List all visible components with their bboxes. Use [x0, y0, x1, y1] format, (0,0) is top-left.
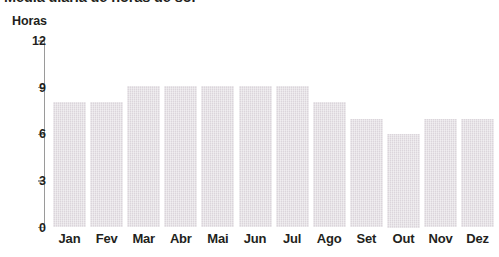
x-axis-label-fev: Fev: [86, 231, 127, 246]
x-axis-label-abr: Abr: [160, 231, 201, 246]
x-axis-label-mai: Mai: [197, 231, 238, 246]
x-axis-label-jun: Jun: [235, 231, 276, 246]
plot-area: 036912 JanFevMarAbrMaiJunJulAgoSetOutNov…: [0, 0, 499, 257]
x-axis-label-set: Set: [346, 231, 387, 246]
bar-out: [387, 134, 420, 227]
bar-nov: [424, 119, 457, 228]
bar-abr: [164, 86, 197, 227]
bar-jul: [276, 86, 309, 227]
x-axis-label-ago: Ago: [309, 231, 350, 246]
bar-mar: [127, 86, 160, 227]
sunshine-hours-bar-chart: Média diária de horas de sol Horas 03691…: [0, 0, 499, 257]
x-axis-label-jan: Jan: [49, 231, 90, 246]
bar-jan: [53, 102, 86, 228]
x-axis-label-dez: Dez: [457, 231, 498, 246]
bars-layer: [0, 0, 499, 257]
bar-set: [350, 119, 383, 228]
x-axis-label-mar: Mar: [123, 231, 164, 246]
x-axis-label-out: Out: [383, 231, 424, 246]
bar-jun: [239, 86, 272, 227]
x-axis-label-jul: Jul: [272, 231, 313, 246]
bar-dez: [461, 119, 494, 228]
x-axis-label-nov: Nov: [420, 231, 461, 246]
bar-fev: [90, 102, 123, 228]
bar-mai: [201, 86, 234, 227]
bar-ago: [313, 102, 346, 228]
